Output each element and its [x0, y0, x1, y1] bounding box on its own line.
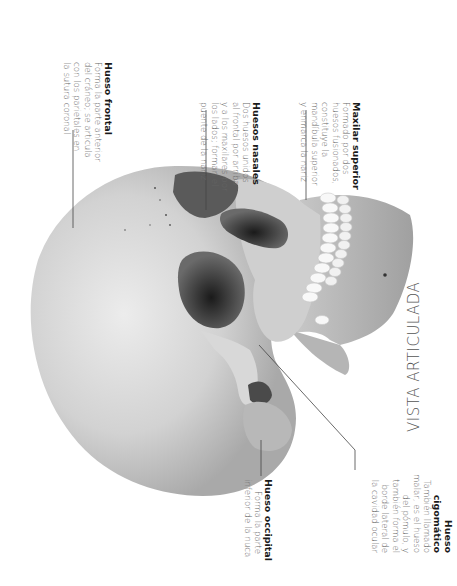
- label-title: Hueso occipital: [263, 479, 274, 561]
- label-desc-line: y a los maxilares por: [220, 102, 230, 192]
- label-desc-line: y enmarca la nariz: [299, 102, 309, 190]
- view-title: VISTA ARTICULADA: [405, 282, 423, 432]
- label-desc-line: con los parietales en: [72, 62, 82, 162]
- label-hueso-cigomatico: Hueso cigomático También llamado malar, …: [370, 474, 454, 553]
- label-desc-line: constituye la: [320, 102, 330, 190]
- label-desc-line: también forma el: [390, 474, 400, 553]
- label-desc-line: También llamado: [422, 474, 432, 553]
- label-hueso-frontal: Hueso frontal Forma la parte anterior de…: [61, 62, 114, 162]
- label-desc-line: Formado por dos: [341, 102, 351, 190]
- label-title: cigomático: [432, 474, 443, 553]
- label-desc-line: la cavidad ocular: [370, 474, 380, 553]
- label-desc-line: malar, es el hueso: [411, 474, 421, 553]
- label-desc-line: inferior de la nuca: [242, 479, 252, 561]
- label-desc-line: Forma la parte anterior: [93, 62, 103, 162]
- anatomy-diagram: Hueso frontal Forma la parte anterior de…: [0, 0, 457, 586]
- label-desc-line: Forma la parte: [253, 479, 263, 561]
- label-maxilar-superior: Maxilar superior Formado por dos huesos …: [299, 102, 362, 190]
- label-title: Hueso: [443, 474, 454, 553]
- label-desc-line: huesos fusionados,: [330, 102, 340, 190]
- label-title: Hueso frontal: [103, 62, 114, 162]
- label-title: Maxilar superior: [351, 102, 362, 190]
- label-desc-line: al frontal por arriba: [230, 102, 240, 192]
- label-desc-line: los lados; forman el: [209, 102, 219, 192]
- label-desc-line: borde lateral de: [380, 474, 390, 553]
- label-huesos-nasales: Huesos nasales Dos huesos unidos al fron…: [199, 102, 262, 192]
- label-hueso-occipital: Hueso occipital Forma la parte inferior …: [242, 479, 274, 561]
- label-desc-line: del pómulo, y: [401, 474, 411, 553]
- label-desc-line: puente de la nariz: [199, 102, 209, 192]
- label-desc-line: la sutura coronal: [61, 62, 71, 162]
- label-desc-line: Dos huesos unidos: [241, 102, 251, 192]
- label-title: Huesos nasales: [251, 102, 262, 192]
- label-desc-line: mandíbula superior: [309, 102, 319, 190]
- label-desc-line: del cráneo; se articula: [82, 62, 92, 162]
